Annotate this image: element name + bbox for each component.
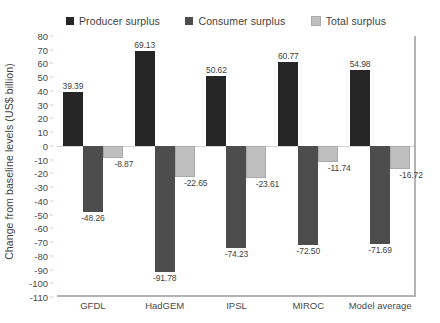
x-axis-line <box>57 295 414 297</box>
y-tick-mark <box>50 269 53 270</box>
y-tick-mark <box>50 242 53 243</box>
bar-consumer[interactable] <box>155 146 175 272</box>
y-tick-mark <box>50 77 53 78</box>
legend-label: Consumer surplus <box>198 15 285 27</box>
y-tick-label: -20 <box>34 168 48 179</box>
bar-consumer[interactable] <box>370 146 390 244</box>
bar-group: 54.98-71.69-16.72 <box>344 36 416 297</box>
x-tick-label: Model average <box>349 300 412 311</box>
y-tick-mark <box>50 255 53 256</box>
bar-producer[interactable] <box>278 62 298 145</box>
y-tick-label: -40 <box>34 195 48 206</box>
y-tick-mark <box>50 132 53 133</box>
bar-value-label: -16.72 <box>399 170 423 180</box>
bar-total[interactable] <box>246 146 266 178</box>
x-tick-label: MIROC <box>292 300 324 311</box>
bar-value-label: -48.26 <box>81 213 105 223</box>
y-tick-mark <box>50 187 53 188</box>
bar-value-label: 69.13 <box>134 40 155 50</box>
bar-total[interactable] <box>103 146 123 158</box>
y-tick-label: -60 <box>34 223 48 234</box>
bar-value-label: -71.69 <box>368 245 392 255</box>
legend-swatch-icon <box>66 17 74 25</box>
plot-wrap: 39.39-48.26-8.8769.13-91.78-22.6550.62-7… <box>57 36 416 297</box>
y-tick-label: 50 <box>37 72 48 83</box>
bar-producer[interactable] <box>206 76 226 146</box>
bar-value-label: -74.23 <box>225 249 249 259</box>
bar-value-label: 60.77 <box>278 51 299 61</box>
bar-consumer[interactable] <box>226 146 246 248</box>
bar-group: 50.62-74.23-23.61 <box>201 36 273 297</box>
legend-swatch-icon <box>185 17 193 25</box>
y-tick-label: -90 <box>34 264 48 275</box>
bar-producer[interactable] <box>135 51 155 146</box>
y-tick-label: -100 <box>29 278 48 289</box>
bar-group: 39.39-48.26-8.87 <box>57 36 129 297</box>
bar-chart: Producer surplusConsumer surplusTotal su… <box>0 0 440 323</box>
y-tick-mark <box>50 145 53 146</box>
y-tick-label: 80 <box>37 31 48 42</box>
bar-total[interactable] <box>175 146 195 177</box>
y-tick-mark <box>50 36 53 37</box>
y-tick-mark <box>50 283 53 284</box>
y-tick-mark <box>50 297 53 298</box>
y-tick-mark <box>50 214 53 215</box>
legend-item-1[interactable]: Consumer surplus <box>185 15 285 27</box>
x-tick-label: GFDL <box>80 300 105 311</box>
bar-value-label: 39.39 <box>63 81 84 91</box>
bar-total[interactable] <box>318 146 338 162</box>
y-tick-label: -110 <box>30 292 48 303</box>
y-tick-mark <box>50 173 53 174</box>
y-tick-mark <box>50 228 53 229</box>
bar-producer[interactable] <box>63 92 83 146</box>
bar-value-label: -91.78 <box>153 273 177 283</box>
x-tick-label: HadGEM <box>145 300 184 311</box>
legend-label: Producer surplus <box>79 15 160 27</box>
y-tick-mark <box>50 90 53 91</box>
y-tick-label: 20 <box>37 113 48 124</box>
y-tick-mark <box>50 63 53 64</box>
y-tick-label: -80 <box>34 250 48 261</box>
y-tick-label: -50 <box>34 209 48 220</box>
bar-value-label: -72.50 <box>297 246 321 256</box>
bar-consumer[interactable] <box>298 146 318 246</box>
y-tick-label: 10 <box>37 127 48 138</box>
legend-item-2[interactable]: Total surplus <box>311 15 386 27</box>
bar-value-label: 50.62 <box>206 65 227 75</box>
bar-value-label: 54.98 <box>350 59 371 69</box>
y-tick-label: -10 <box>34 154 48 165</box>
x-axis-tick-labels: GFDLHadGEMIPSLMIROCModel average <box>57 300 416 316</box>
y-tick-label: -30 <box>34 182 48 193</box>
y-tick-label: 40 <box>37 85 48 96</box>
plot-area: 39.39-48.26-8.8769.13-91.78-22.6550.62-7… <box>57 36 416 297</box>
bar-producer[interactable] <box>350 70 370 146</box>
bar-group: 69.13-91.78-22.65 <box>129 36 201 297</box>
y-tick-label: 70 <box>37 44 48 55</box>
legend-item-0[interactable]: Producer surplus <box>66 15 160 27</box>
legend-label: Total surplus <box>326 15 386 27</box>
legend-swatch-icon <box>311 16 321 26</box>
bar-consumer[interactable] <box>83 146 103 212</box>
y-tick-mark <box>50 159 53 160</box>
bar-group: 60.77-72.50-11.74 <box>272 36 344 297</box>
chart-legend: Producer surplusConsumer surplusTotal su… <box>66 11 386 31</box>
x-tick-label: IPSL <box>226 300 247 311</box>
bar-total[interactable] <box>390 146 410 169</box>
y-axis-tick-labels: 80706050403020100-10-20-30-40-50-60-70-8… <box>0 36 53 297</box>
y-tick-label: 0 <box>43 140 48 151</box>
y-tick-label: 30 <box>37 99 48 110</box>
y-tick-label: -70 <box>34 237 48 248</box>
y-tick-mark <box>50 49 53 50</box>
y-tick-mark <box>50 118 53 119</box>
y-tick-label: 60 <box>37 58 48 69</box>
y-tick-mark <box>50 200 53 201</box>
y-tick-mark <box>50 104 53 105</box>
